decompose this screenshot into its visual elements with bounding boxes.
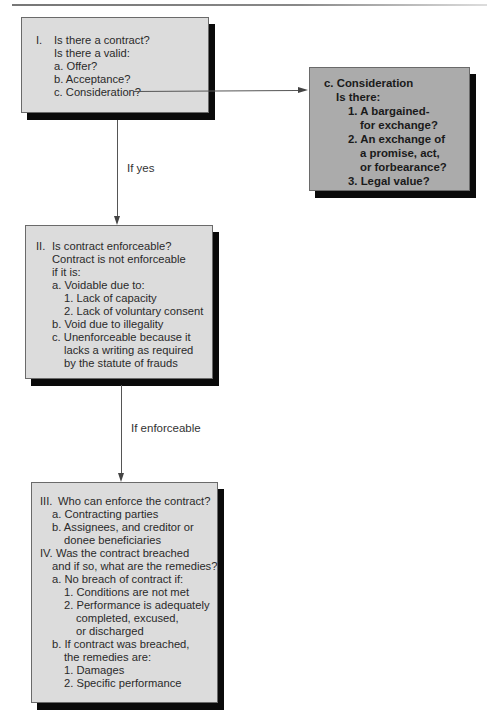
box-line: 2. An exchange of bbox=[348, 132, 445, 146]
connector-if-enforceable bbox=[121, 385, 122, 474]
arrow-down-icon bbox=[114, 216, 120, 225]
box-line: 1. Damages bbox=[64, 664, 124, 677]
top-rule bbox=[12, 4, 487, 6]
connector-to-consideration bbox=[134, 90, 298, 92]
roman-numeral: IV. bbox=[40, 547, 53, 560]
box-line: completed, excused, bbox=[76, 612, 179, 625]
box-line: 3. Legal value? bbox=[348, 174, 430, 188]
box-line: Is there a valid: bbox=[54, 47, 130, 60]
box-line: 1. Conditions are not met bbox=[64, 586, 189, 599]
box-line: Was the contract breached bbox=[56, 547, 189, 560]
box-line: a. No breach of contract if: bbox=[52, 573, 183, 586]
box-line: 1. A bargained- bbox=[348, 104, 429, 118]
box-line: Who can enforce the contract? bbox=[58, 495, 210, 508]
connector-if-yes bbox=[117, 120, 118, 217]
box-line: by the statute of frauds bbox=[64, 357, 178, 370]
box-line: c. Consideration bbox=[324, 76, 413, 90]
box-line: a. Contracting parties bbox=[52, 508, 158, 521]
box-is-there-a-contract: I. Is there a contract? Is there a valid… bbox=[21, 17, 209, 113]
box-line: if it is: bbox=[52, 266, 81, 279]
box-line: a. Voidable due to: bbox=[52, 279, 145, 292]
box-line: Is there a contract? bbox=[54, 34, 150, 47]
box-line: for exchange? bbox=[360, 118, 438, 132]
arrow-down-icon bbox=[118, 473, 124, 482]
box-line: b. Assignees, and creditor or bbox=[52, 521, 194, 534]
box-line: b. Acceptance? bbox=[54, 73, 131, 86]
box-who-can-enforce: III. Who can enforce the contract? a. Co… bbox=[31, 482, 218, 703]
box-line: donee beneficiaries bbox=[64, 534, 161, 547]
connector-label-if-enforceable: If enforceable bbox=[131, 422, 201, 434]
roman-numeral: II. bbox=[36, 240, 45, 253]
arrow-right-icon bbox=[298, 87, 308, 93]
box-line: c. Unenforceable because it bbox=[52, 331, 191, 344]
connector-label-if-yes: If yes bbox=[127, 162, 154, 174]
roman-numeral: III. bbox=[40, 495, 52, 508]
box-line: the remedies are: bbox=[64, 651, 151, 664]
box-line: 1. Lack of capacity bbox=[64, 292, 157, 305]
box-line: or discharged bbox=[76, 625, 144, 638]
box-line: c. Consideration? bbox=[54, 86, 141, 99]
box-line: and if so, what are the remedies? bbox=[52, 560, 217, 573]
box-line: 2. Performance is adequately bbox=[64, 599, 210, 612]
box-line: a. Offer? bbox=[54, 60, 97, 73]
box-line: lacks a writing as required bbox=[64, 344, 193, 357]
box-line: or forbearance? bbox=[360, 160, 447, 174]
box-line: Is contract enforceable? bbox=[52, 240, 171, 253]
box-is-contract-enforceable: II. Is contract enforceable? Contract is… bbox=[25, 225, 213, 379]
roman-numeral: I. bbox=[36, 34, 42, 47]
box-line: b. If contract was breached, bbox=[52, 638, 189, 651]
box-line: b. Void due to illegality bbox=[52, 318, 163, 331]
box-line: 2. Specific performance bbox=[64, 677, 182, 690]
box-line: Is there: bbox=[336, 90, 380, 104]
box-consideration: c. Consideration Is there: 1. A bargaine… bbox=[309, 67, 470, 191]
box-line: a promise, act, bbox=[360, 146, 440, 160]
box-line: 2. Lack of voluntary consent bbox=[64, 305, 203, 318]
box-line: Contract is not enforceable bbox=[52, 253, 186, 266]
